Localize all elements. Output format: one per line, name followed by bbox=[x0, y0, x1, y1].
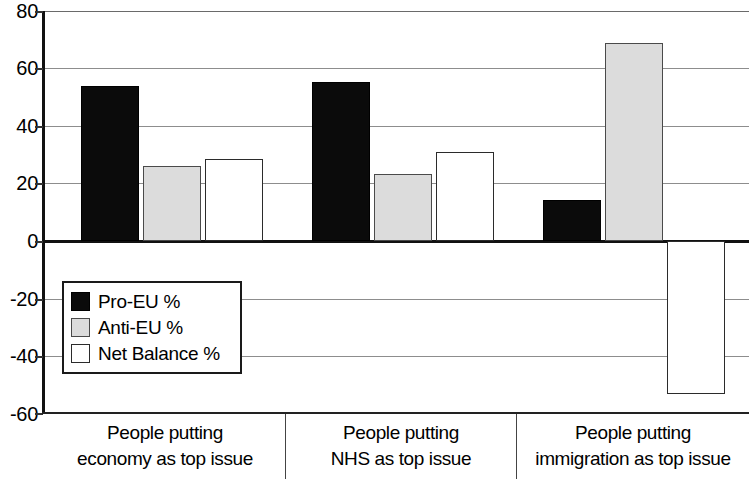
category-label-line: People putting bbox=[286, 420, 516, 446]
y-tick-mark bbox=[35, 11, 43, 13]
gridline bbox=[45, 11, 749, 12]
legend-label: Net Balance % bbox=[98, 344, 220, 363]
legend-swatch-icon bbox=[71, 344, 90, 363]
bar-chart: 80 60 40 20 0 -20 -40 -60 People putting… bbox=[0, 0, 749, 479]
category-label-line: NHS as top issue bbox=[286, 446, 516, 472]
legend-item-pro-eu: Pro-EU % bbox=[71, 288, 233, 314]
legend-item-anti-eu: Anti-EU % bbox=[71, 314, 233, 340]
category-label-economy: People putting economy as top issue bbox=[45, 420, 285, 472]
category-label-line: immigration as top issue bbox=[517, 446, 749, 472]
bar-net-balance bbox=[436, 152, 494, 241]
y-tick-label: 60 bbox=[0, 58, 38, 78]
legend-label: Pro-EU % bbox=[98, 292, 180, 311]
y-tick-label: 80 bbox=[0, 1, 38, 21]
y-tick-mark bbox=[35, 356, 43, 358]
y-tick-label: -60 bbox=[0, 404, 38, 424]
bar-pro-eu bbox=[81, 86, 139, 241]
bar-anti-eu bbox=[374, 174, 432, 242]
bar-anti-eu bbox=[143, 166, 201, 241]
y-axis: 80 60 40 20 0 -20 -40 -60 bbox=[0, 0, 38, 479]
bar-anti-eu bbox=[605, 43, 663, 242]
y-tick-mark bbox=[35, 126, 43, 128]
bar-net-balance bbox=[205, 159, 263, 241]
category-label-line: People putting bbox=[517, 420, 749, 446]
y-tick-mark bbox=[35, 299, 43, 301]
y-tick-label: 20 bbox=[0, 173, 38, 193]
bar-net-balance bbox=[667, 241, 725, 394]
category-label-line: economy as top issue bbox=[45, 446, 285, 472]
legend: Pro-EU % Anti-EU % Net Balance % bbox=[62, 281, 242, 374]
y-tick-label: -40 bbox=[0, 346, 38, 366]
x-axis-line bbox=[42, 412, 749, 414]
y-tick-label: 0 bbox=[0, 231, 38, 251]
y-tick-label: -20 bbox=[0, 289, 38, 309]
category-label-line: People putting bbox=[45, 420, 285, 446]
y-tick-mark bbox=[35, 183, 43, 185]
y-tick-mark bbox=[35, 68, 43, 70]
bar-pro-eu bbox=[543, 200, 601, 242]
bar-pro-eu bbox=[312, 82, 370, 242]
category-label-nhs: People putting NHS as top issue bbox=[286, 420, 516, 472]
y-tick-label: 40 bbox=[0, 116, 38, 136]
legend-item-net-balance: Net Balance % bbox=[71, 340, 233, 366]
legend-label: Anti-EU % bbox=[98, 318, 183, 337]
legend-swatch-icon bbox=[71, 292, 90, 311]
legend-swatch-icon bbox=[71, 318, 90, 337]
category-label-immigration: People putting immigration as top issue bbox=[517, 420, 749, 472]
y-tick-mark bbox=[35, 241, 43, 243]
